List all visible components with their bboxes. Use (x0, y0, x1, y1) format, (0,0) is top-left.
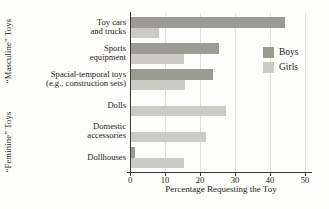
y-axis-line (130, 12, 131, 172)
girls-legend-label: Girls (279, 62, 298, 73)
category-label-4: Domesticaccessories (87, 122, 126, 141)
category-label-0: Toy carsand trucks (90, 18, 126, 37)
boys-series-swatch (263, 47, 274, 58)
bar-girls-4 (131, 132, 206, 142)
category-label-2: Spacial-temporal toys(e.g., construction… (46, 70, 126, 89)
gridline-30 (235, 13, 236, 172)
girls-series-swatch (263, 62, 274, 73)
legend-item-boys: Boys (263, 47, 299, 58)
bar-boys-0 (131, 17, 285, 28)
x-axis-line (127, 172, 312, 173)
gridline-20 (200, 13, 201, 172)
category-label-line: and trucks (90, 27, 126, 37)
gridline-40 (270, 13, 271, 172)
bar-boys-5 (131, 147, 135, 158)
legend: Boys Girls (263, 47, 299, 77)
category-label-3: Dolls (107, 101, 126, 111)
bar-boys-2 (131, 69, 213, 80)
category-label-1: Sportsequipment (90, 44, 126, 63)
gridline-10 (165, 13, 166, 172)
x-axis-title: Percentage Requesting the Toy (128, 184, 314, 194)
feminine-toys-group-label: “Feminine” Toys (3, 111, 13, 172)
masculine-toys-group-label: “Masculine” Toys (3, 19, 13, 84)
bar-girls-5 (131, 158, 184, 168)
bar-girls-2 (131, 80, 185, 90)
bar-girls-0 (131, 28, 159, 38)
boys-legend-label: Boys (279, 47, 299, 58)
category-label-5: Dollhouses (87, 153, 126, 163)
legend-item-girls: Girls (263, 62, 299, 73)
bar-boys-1 (131, 43, 219, 54)
category-label-line: equipment (90, 53, 126, 63)
category-label-line: Dolls (107, 101, 126, 111)
category-label-line: (e.g., construction sets) (46, 79, 126, 89)
bar-girls-3 (131, 106, 226, 116)
bar-girls-1 (131, 54, 184, 64)
category-label-line: accessories (87, 131, 126, 141)
gridline-50 (305, 13, 306, 172)
category-label-line: Dollhouses (87, 153, 126, 163)
toy-request-bar-chart: “Masculine” Toys “Feminine” Toys Toy car… (0, 0, 329, 209)
